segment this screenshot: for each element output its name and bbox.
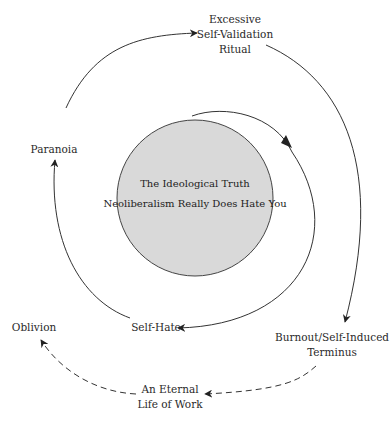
node-self-hate-label: Self-Hate	[131, 320, 181, 335]
node-ritual: Excessive Self-Validation Ritual	[197, 12, 273, 57]
center-label-line2: Neoliberalism Really Does Hate You	[103, 194, 286, 214]
center-label: The Ideological Truth Neoliberalism Real…	[103, 174, 286, 214]
arrow-work-to-oblivion	[41, 340, 136, 394]
node-ritual-line1: Excessive	[197, 12, 273, 27]
node-work: An Eternal Life of Work	[137, 382, 202, 412]
node-ritual-line2: Self-Validation	[197, 27, 273, 42]
node-burnout-line1: Burnout/Self-Induced	[275, 330, 389, 345]
node-oblivion: Oblivion	[12, 320, 56, 335]
node-work-line2: Life of Work	[137, 397, 202, 412]
diagram-canvas: The Ideological Truth Neoliberalism Real…	[0, 0, 391, 421]
node-paranoia: Paranoia	[31, 142, 78, 157]
node-paranoia-label: Paranoia	[31, 142, 78, 157]
node-burnout: Burnout/Self-Induced Terminus	[275, 330, 389, 360]
node-work-line1: An Eternal	[137, 382, 202, 397]
node-self-hate: Self-Hate	[131, 320, 181, 335]
node-oblivion-label: Oblivion	[12, 320, 56, 335]
arrow-paranoia-to-ritual	[66, 33, 197, 108]
node-burnout-line2: Terminus	[275, 345, 389, 360]
arrow-burnout-to-work	[205, 366, 316, 394]
center-label-line1: The Ideological Truth	[103, 174, 286, 194]
node-ritual-line3: Ritual	[197, 42, 273, 57]
